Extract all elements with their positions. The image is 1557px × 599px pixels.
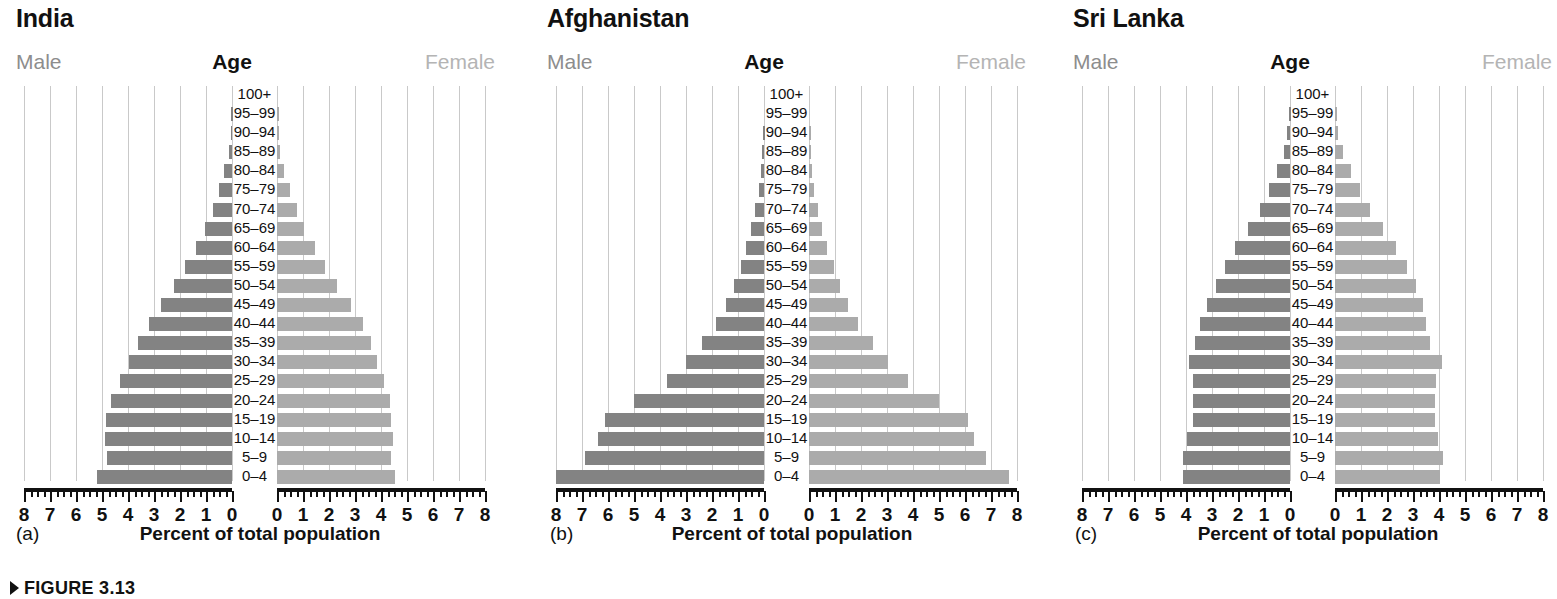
age-group-label: 70–74 bbox=[764, 200, 809, 217]
bar-male bbox=[1193, 413, 1291, 427]
axis-tick-minor bbox=[1128, 491, 1130, 497]
bar-male bbox=[605, 413, 764, 427]
axis-tick-minor bbox=[161, 491, 163, 497]
bar-female bbox=[1335, 470, 1440, 484]
bar-male bbox=[224, 164, 232, 178]
axis-tick-minor bbox=[1452, 491, 1454, 497]
age-group-row: 85–89 bbox=[519, 143, 1038, 162]
axis-tick-minor bbox=[148, 491, 150, 497]
age-group-label: 100+ bbox=[764, 85, 809, 102]
bar-male bbox=[1269, 183, 1290, 197]
age-group-row: 35–39 bbox=[519, 334, 1038, 353]
bar-male bbox=[106, 413, 232, 427]
axis-tick-minor bbox=[816, 491, 818, 497]
axis-tick-minor bbox=[855, 491, 857, 497]
bar-male bbox=[556, 470, 764, 484]
axis-left-afghanistan: 876543210 bbox=[556, 488, 764, 510]
triangle-marker-icon bbox=[10, 581, 19, 595]
axis-tick-minor bbox=[1420, 491, 1422, 497]
age-group-row: 80–84 bbox=[0, 162, 519, 181]
bar-male bbox=[1193, 374, 1291, 388]
age-group-label: 85–89 bbox=[1290, 142, 1335, 159]
age-group-label: 90–94 bbox=[1290, 123, 1335, 140]
age-group-label: 20–24 bbox=[1290, 391, 1335, 408]
age-group-row: 100+ bbox=[0, 86, 519, 105]
age-group-row: 15–19 bbox=[519, 411, 1038, 430]
age-group-label: 10–14 bbox=[764, 429, 809, 446]
age-group-label: 30–34 bbox=[232, 352, 277, 369]
female-legend-label: Female bbox=[956, 50, 1026, 74]
age-group-label: 20–24 bbox=[764, 391, 809, 408]
axis-tick-minor bbox=[453, 491, 455, 497]
axis-tick-major bbox=[861, 491, 863, 502]
axis-tick-minor bbox=[83, 491, 85, 497]
bar-male bbox=[97, 470, 232, 484]
axis-tick-minor bbox=[1472, 491, 1474, 497]
axis-tick-minor bbox=[959, 491, 961, 497]
axis-tick-major bbox=[1361, 491, 1363, 502]
axis-tick-major bbox=[1465, 491, 1467, 502]
axis-tick-minor bbox=[135, 491, 137, 497]
axis-tick-minor bbox=[219, 491, 221, 497]
bar-male bbox=[1183, 470, 1290, 484]
age-group-label: 80–84 bbox=[764, 161, 809, 178]
age-group-label: 0–4 bbox=[1290, 467, 1335, 484]
axis-tick-minor bbox=[1095, 491, 1097, 497]
bar-male bbox=[751, 222, 764, 236]
axis-tick-major bbox=[102, 491, 104, 502]
axis-tick-minor bbox=[641, 491, 643, 497]
age-group-row: 80–84 bbox=[1038, 162, 1557, 181]
age-group-row: 50–54 bbox=[519, 277, 1038, 296]
bar-female bbox=[1335, 336, 1430, 350]
age-group-row: 35–39 bbox=[0, 334, 519, 353]
axis-tick-minor bbox=[1011, 491, 1013, 497]
bar-female bbox=[1335, 451, 1443, 465]
bar-male bbox=[1193, 394, 1291, 408]
age-group-row: 45–49 bbox=[1038, 296, 1557, 315]
age-group-row: 50–54 bbox=[0, 277, 519, 296]
age-group-label: 50–54 bbox=[764, 276, 809, 293]
bar-male bbox=[120, 374, 232, 388]
axis-tick-major bbox=[154, 491, 156, 502]
age-group-label: 50–54 bbox=[1290, 276, 1335, 293]
axis-tick-major bbox=[1264, 491, 1266, 502]
age-group-row: 85–89 bbox=[1038, 143, 1557, 162]
axis-tick-major bbox=[329, 491, 331, 502]
bar-female bbox=[1335, 374, 1436, 388]
axis-tick-minor bbox=[1180, 491, 1182, 497]
bar-male bbox=[726, 298, 764, 312]
bar-male bbox=[741, 260, 764, 274]
bar-female bbox=[809, 222, 822, 236]
bar-female bbox=[277, 260, 325, 274]
bar-male bbox=[107, 451, 232, 465]
age-group-row: 0–4 bbox=[1038, 468, 1557, 487]
age-group-label: 50–54 bbox=[232, 276, 277, 293]
axis-tick-minor bbox=[414, 491, 416, 497]
axis-tick-minor bbox=[1433, 491, 1435, 497]
axis-tick-minor bbox=[1277, 491, 1279, 497]
axis-tick-minor bbox=[1199, 491, 1201, 497]
age-group-row: 55–59 bbox=[1038, 258, 1557, 277]
bar-female bbox=[277, 279, 337, 293]
bar-male bbox=[111, 394, 232, 408]
bar-female bbox=[277, 145, 280, 159]
axis-tick-major bbox=[1439, 491, 1441, 502]
bar-female bbox=[1335, 222, 1383, 236]
bar-male bbox=[1216, 279, 1290, 293]
axis-tick-label: 7 bbox=[577, 504, 588, 526]
axis-tick-minor bbox=[868, 491, 870, 497]
age-group-row: 75–79 bbox=[1038, 181, 1557, 200]
axis-tick-minor bbox=[1251, 491, 1253, 497]
axis-tick-minor bbox=[187, 491, 189, 497]
axis-tick-major bbox=[76, 491, 78, 502]
age-group-row: 70–74 bbox=[0, 201, 519, 220]
axis-tick-minor bbox=[1400, 491, 1402, 497]
figure-caption: FIGURE 3.13 bbox=[10, 578, 135, 599]
age-group-row: 5–9 bbox=[1038, 449, 1557, 468]
age-group-row: 75–79 bbox=[519, 181, 1038, 200]
axis-tick-minor bbox=[1141, 491, 1143, 497]
bar-female bbox=[277, 241, 315, 255]
axis-tick-minor bbox=[699, 491, 701, 497]
axis-tick-minor bbox=[109, 491, 111, 497]
age-group-label: 0–4 bbox=[232, 467, 277, 484]
